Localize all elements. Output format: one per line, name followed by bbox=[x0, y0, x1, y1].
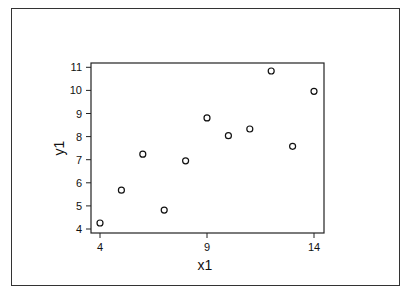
data-point bbox=[247, 126, 253, 132]
data-point bbox=[204, 115, 210, 121]
data-point bbox=[311, 88, 317, 94]
data-point bbox=[268, 68, 274, 74]
y-tick-label: 9 bbox=[76, 108, 82, 120]
data-point bbox=[225, 133, 231, 139]
data-point bbox=[118, 187, 124, 193]
y-tick-label: 7 bbox=[76, 154, 82, 166]
x-tick-label: 4 bbox=[97, 241, 103, 253]
data-points bbox=[97, 68, 317, 226]
x-axis: 4914 bbox=[97, 233, 320, 253]
data-point bbox=[161, 207, 167, 213]
y-axis-label: y1 bbox=[51, 140, 67, 155]
y-axis: 4567891011 bbox=[70, 61, 91, 235]
plot-area bbox=[91, 63, 324, 233]
y-tick-label: 11 bbox=[71, 61, 82, 73]
data-point bbox=[183, 158, 189, 164]
data-point bbox=[290, 143, 296, 149]
scatter-plot: 4567891011 4914 x1 y1 bbox=[0, 0, 408, 289]
x-tick-label: 14 bbox=[308, 241, 320, 253]
data-point bbox=[140, 151, 146, 157]
y-tick-label: 10 bbox=[70, 84, 82, 96]
y-tick-label: 4 bbox=[76, 223, 82, 235]
data-point bbox=[97, 220, 103, 226]
y-tick-label: 5 bbox=[76, 200, 82, 212]
y-tick-label: 6 bbox=[76, 177, 82, 189]
x-tick-label: 9 bbox=[204, 241, 210, 253]
y-tick-label: 8 bbox=[76, 131, 82, 143]
x-axis-label: x1 bbox=[198, 257, 213, 273]
